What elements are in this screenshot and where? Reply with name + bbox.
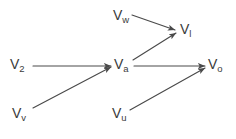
node-label-vv: Vv: [12, 106, 26, 123]
node-base-letter: V: [12, 105, 21, 121]
node-base-letter: V: [113, 7, 122, 23]
node-subscript: l: [189, 28, 191, 39]
node-base-letter: V: [180, 21, 189, 37]
node-label-vu: Vu: [112, 106, 127, 123]
node-base-letter: V: [208, 56, 217, 72]
edge-vu-vo: [130, 68, 205, 110]
node-label-vw: Vw: [113, 8, 129, 25]
graph-figure: VwVlV2VaVoVvVu: [0, 0, 236, 139]
node-label-vl: Vl: [180, 22, 191, 39]
node-base-letter: V: [112, 105, 121, 121]
node-subscript: v: [21, 112, 26, 123]
node-subscript: a: [123, 63, 128, 74]
edge-vv-va: [33, 67, 111, 108]
node-label-va: Va: [114, 57, 129, 74]
node-subscript: o: [217, 63, 222, 74]
node-subscript: w: [122, 14, 129, 25]
node-subscript: 2: [19, 63, 24, 74]
node-base-letter: V: [114, 56, 123, 72]
node-label-v2: V2: [10, 57, 25, 74]
node-subscript: u: [121, 112, 126, 123]
edge-vw-vl: [132, 15, 175, 30]
edge-va-vl: [133, 33, 176, 60]
node-base-letter: V: [10, 56, 19, 72]
node-label-vo: Vo: [208, 57, 223, 74]
